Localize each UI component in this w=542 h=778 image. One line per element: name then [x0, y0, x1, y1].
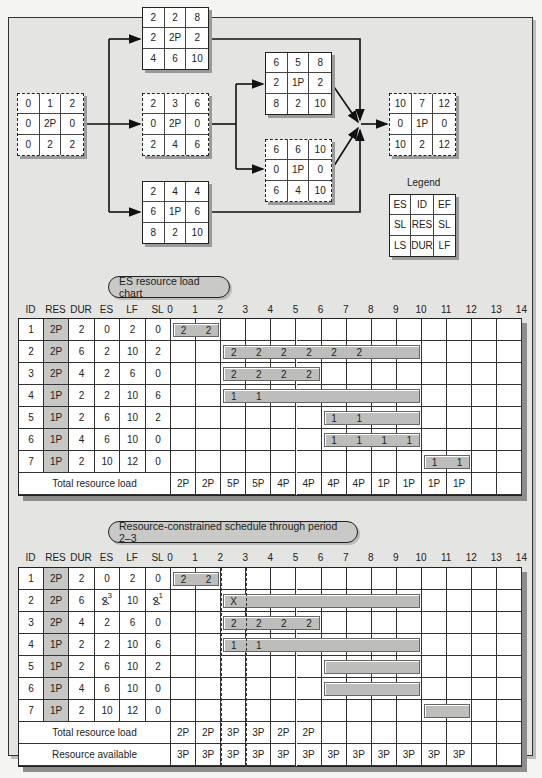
load-value: 2 — [171, 319, 196, 341]
period-cell — [422, 385, 447, 407]
activity-node-g: 1071201P010212 — [389, 93, 456, 156]
cell-lf: 12 — [120, 700, 146, 722]
period-cell — [397, 451, 422, 473]
period-cell — [422, 341, 447, 363]
period-cell — [447, 678, 472, 700]
schedule-bar — [223, 594, 420, 608]
activity-node-e: 65821P28210 — [265, 52, 332, 115]
legend-cell: ID — [411, 195, 434, 215]
cell-dur: 2 — [69, 634, 95, 656]
period-cell — [497, 407, 522, 429]
period-cell — [271, 568, 296, 590]
period-cell — [347, 451, 372, 473]
load-value: 1 — [322, 429, 347, 451]
summary-cell — [322, 722, 347, 744]
summary-cell: 3P — [246, 722, 271, 744]
period-cell — [297, 700, 322, 722]
cell-sl: 2 — [146, 407, 171, 429]
period-cell — [221, 678, 246, 700]
node-cell: 0 — [143, 114, 165, 134]
node-cell: 10 — [309, 181, 331, 201]
period-cell — [422, 429, 447, 451]
period-cell — [171, 385, 196, 407]
cell-lf: 10 — [120, 678, 146, 700]
summary-cell: 3P — [297, 744, 322, 766]
load-value: 1 — [246, 385, 271, 407]
activity-node-d: 24461P68210 — [142, 181, 209, 244]
period-label: 9 — [386, 552, 406, 563]
period-label: 1 — [185, 552, 205, 563]
activity-row: 22P6231021X — [19, 590, 521, 612]
period-cell — [246, 319, 271, 341]
load-value: 1 — [221, 634, 246, 656]
node-cell: 2 — [143, 8, 165, 28]
node-cell: 6 — [186, 135, 208, 155]
period-label: 6 — [311, 552, 331, 563]
period-cell — [372, 451, 397, 473]
summary-label: Total resource load — [19, 473, 171, 495]
period-cell — [447, 407, 472, 429]
node-cell: 0 — [266, 160, 288, 180]
cell-sl: 2 — [146, 341, 171, 363]
node-cell: 6 — [288, 140, 310, 160]
cell-res: 1P — [44, 451, 69, 473]
period-cell — [322, 363, 347, 385]
period-cell — [196, 634, 221, 656]
column-header: DUR — [68, 552, 94, 563]
cell-res: 1P — [44, 385, 69, 407]
cell-lf: 10 — [120, 590, 146, 612]
schedule-bar — [424, 704, 470, 718]
summary-cell: 3P — [171, 744, 196, 766]
column-header: RES — [43, 304, 68, 315]
period-cell — [322, 319, 347, 341]
period-cell — [196, 341, 221, 363]
period-label: 14 — [511, 304, 531, 315]
cell-dur: 4 — [69, 429, 95, 451]
period-cell — [497, 429, 522, 451]
period-cell — [246, 407, 271, 429]
cell-sl: 2 — [146, 656, 171, 678]
summary-cell: 2P — [297, 722, 322, 744]
period-cell — [246, 568, 271, 590]
period-cell — [422, 634, 447, 656]
cell-res: 1P — [44, 656, 69, 678]
legend-box: ESIDEFSLRESSLLSDURLF — [389, 194, 456, 257]
period-cell — [472, 319, 497, 341]
period-cell — [322, 700, 347, 722]
period-cell — [297, 568, 322, 590]
node-cell: 8 — [266, 94, 288, 114]
load-value: 1 — [221, 385, 246, 407]
node-cell: 5 — [288, 53, 310, 73]
cell-id: 4 — [19, 385, 44, 407]
node-cell: 2 — [288, 94, 310, 114]
period-label: 10 — [411, 304, 431, 315]
summary-cell: 1P — [397, 473, 422, 495]
node-cell: 2P — [40, 114, 62, 134]
period-cell — [497, 700, 522, 722]
activity-row: 32P42602222 — [19, 612, 521, 634]
load-value: 2 — [297, 612, 322, 634]
node-cell: 2 — [143, 28, 165, 48]
period-cell — [196, 451, 221, 473]
cell-dur: 6 — [69, 590, 95, 612]
summary-cell — [397, 722, 422, 744]
load-value: 1 — [422, 451, 447, 473]
period-cell — [171, 656, 196, 678]
summary-cell — [497, 722, 522, 744]
node-cell: 2 — [143, 94, 165, 114]
node-cell: 0 — [433, 114, 455, 134]
totals-row: Total resource load2P2P3P3P2P2P — [19, 722, 521, 744]
node-cell: 4 — [143, 49, 165, 69]
period-cell — [196, 656, 221, 678]
cell-es: 2 — [95, 612, 120, 634]
node-cell: 1 — [40, 94, 62, 114]
period-cell — [422, 568, 447, 590]
legend-title: Legend — [407, 177, 440, 188]
period-cell — [171, 612, 196, 634]
cell-id: 1 — [19, 319, 44, 341]
cell-es: 2 — [95, 634, 120, 656]
node-cell: 0 — [61, 114, 83, 134]
node-cell: 2P — [165, 114, 187, 134]
period-cell — [196, 385, 221, 407]
period-cell — [447, 363, 472, 385]
